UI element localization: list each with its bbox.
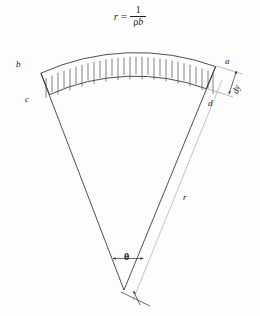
right-radial-edge	[124, 67, 216, 290]
label-theta: θ	[124, 252, 129, 262]
label-r: r	[183, 193, 187, 202]
edge-ad	[206, 67, 216, 89]
label-a: a	[225, 57, 230, 66]
r-arrow	[134, 291, 141, 305]
r-dimension	[121, 80, 222, 306]
label-d: d	[208, 99, 213, 108]
figure-root: r=1ρb	[0, 0, 260, 316]
inner-arc	[50, 76, 207, 94]
edge-bc	[41, 73, 50, 94]
left-radial-edge	[41, 73, 124, 290]
label-c: c	[25, 95, 29, 104]
outer-arc	[41, 53, 216, 74]
sector-diagram	[0, 0, 260, 316]
dy-ext-top	[217, 66, 243, 74]
label-b: b	[16, 60, 21, 69]
hatching-group	[46, 57, 213, 98]
r-dimension-line	[133, 80, 222, 300]
